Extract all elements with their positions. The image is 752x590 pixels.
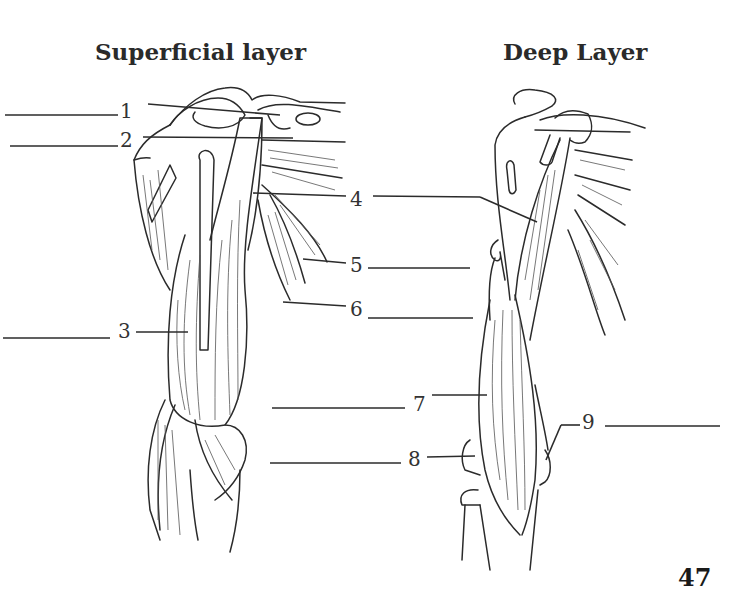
deep-arm-drawing	[461, 90, 645, 570]
answer-blank-1[interactable]	[5, 98, 118, 115]
label-number-5: 5	[350, 255, 363, 275]
label-number-4: 4	[350, 189, 363, 209]
answer-blank-5[interactable]	[368, 251, 470, 268]
superficial-arm-drawing	[134, 88, 345, 552]
answer-blank-6[interactable]	[368, 301, 473, 318]
label-number-1: 1	[120, 101, 133, 121]
page-number: 47	[678, 563, 711, 590]
label-number-6: 6	[350, 299, 363, 319]
answer-blank-8[interactable]	[270, 446, 401, 463]
label-number-2: 2	[120, 130, 133, 150]
answer-blank-9[interactable]	[605, 409, 720, 426]
label-number-8: 8	[408, 449, 421, 469]
label-number-7: 7	[413, 394, 426, 414]
answer-blank-4[interactable]	[373, 179, 480, 196]
answer-blank-3[interactable]	[3, 321, 110, 338]
answer-blank-2[interactable]	[10, 129, 118, 146]
arm-muscle-illustration	[0, 0, 752, 590]
label-number-9: 9	[582, 412, 595, 432]
label-number-3: 3	[118, 321, 131, 341]
answer-blank-7[interactable]	[272, 391, 405, 408]
